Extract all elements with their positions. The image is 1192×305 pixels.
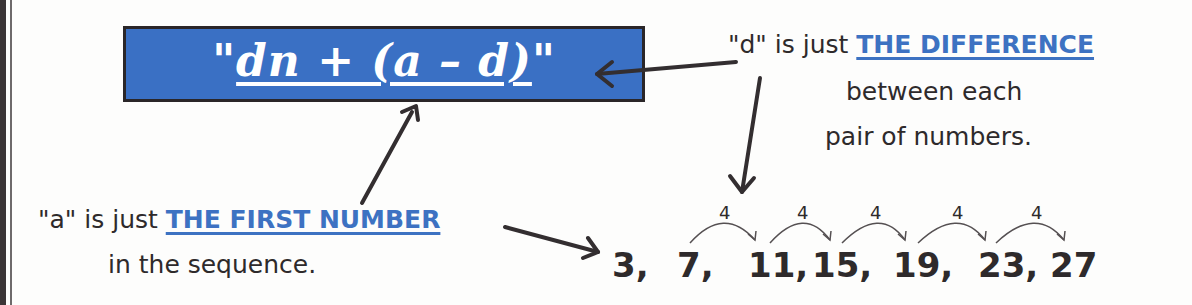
difference-arc [770, 223, 830, 243]
arrowhead-icon [748, 231, 756, 240]
difference-arc [842, 223, 905, 243]
difference-arc [690, 223, 755, 243]
difference-arc [918, 223, 985, 243]
arrow-a-to-first-term [505, 227, 598, 252]
arrow-a-to-formula [362, 112, 412, 203]
arrow-d-to-sequence [742, 78, 760, 192]
difference-arc [996, 223, 1064, 243]
arrow-d-to-formula [597, 62, 736, 74]
arrows-layer [0, 0, 1192, 305]
